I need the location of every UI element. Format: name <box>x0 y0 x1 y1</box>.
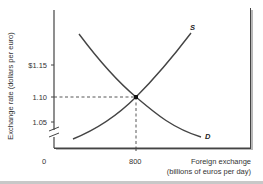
equilibrium-point <box>134 95 138 99</box>
x-tick-label-0: 0 <box>42 157 46 166</box>
x-tick-label-800: 800 <box>129 157 142 166</box>
y-tick-label-1-15: $1.15 <box>17 61 47 70</box>
x-axis-label-line1: Foreign exchange <box>167 157 251 167</box>
axis-break-mark <box>49 133 59 137</box>
y-tick-label-1-10: 1.10 <box>17 93 47 102</box>
bottom-divider <box>0 181 263 184</box>
y-axis-label: Exchange rate (dollars per euro) <box>3 24 17 148</box>
x-axis-label: Foreign exchange (billions of euros per … <box>167 157 251 177</box>
y-tick-label-1-05: 1.05 <box>17 118 47 127</box>
supply-curve-label: S <box>190 23 195 32</box>
x-axis-label-line2: (billions of euros per day) <box>167 167 251 177</box>
demand-curve-label: D <box>205 132 210 141</box>
demand-curve <box>79 34 201 137</box>
y-axis-label-text: Exchange rate (dollars per euro) <box>6 32 15 140</box>
